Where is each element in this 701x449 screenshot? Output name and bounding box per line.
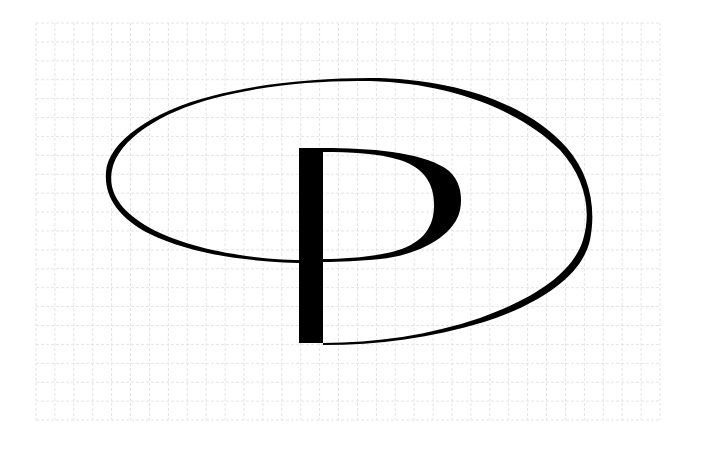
p-bowl — [323, 148, 461, 262]
p-stem — [299, 148, 323, 343]
background-grid — [36, 23, 660, 420]
monogram-p-oval — [106, 78, 593, 345]
monogram-canvas — [0, 0, 701, 449]
oval-swash-stroke — [106, 78, 593, 345]
